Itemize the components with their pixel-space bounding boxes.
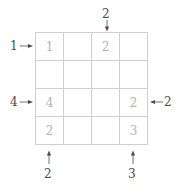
clue-label-left-row3: 4 [10, 96, 18, 108]
grid-cell-r3c4[interactable]: 2 [120, 89, 148, 117]
clue-label-bottom-col4: 3 [128, 168, 136, 180]
grid-cell-r4c1[interactable]: 2 [36, 117, 64, 145]
grid-cell-r2c3[interactable] [92, 61, 120, 89]
grid-cell-r1c1[interactable]: 1 [36, 33, 64, 61]
grid-cell-r3c2[interactable] [64, 89, 92, 117]
grid-cell-r3c3[interactable] [92, 89, 120, 117]
clue-arrow-top-col3 [100, 20, 114, 32]
clue-arrow-right-row3 [149, 96, 163, 108]
grid-cell-r2c4[interactable] [120, 61, 148, 89]
grid-cell-r2c2[interactable] [64, 61, 92, 89]
clue-label-left-row1: 1 [10, 40, 18, 52]
grid-cell-r4c2[interactable] [64, 117, 92, 145]
puzzle-grid: 1 2 4 2 2 3 [35, 32, 148, 145]
puzzle-diagram: 1 2 4 2 2 3 2 1 4 [0, 0, 177, 191]
grid-cell-r2c1[interactable] [36, 61, 64, 89]
clue-label-top-col3: 2 [102, 8, 110, 20]
clue-label-bottom-col1: 2 [44, 168, 52, 180]
clue-arrow-left-row3 [20, 96, 34, 108]
grid-cell-r1c2[interactable] [64, 33, 92, 61]
grid-cell-r1c3[interactable]: 2 [92, 33, 120, 61]
clue-arrow-bottom-col1 [42, 150, 56, 164]
clue-arrow-left-row1 [20, 40, 34, 52]
clue-arrow-bottom-col4 [126, 150, 140, 164]
clue-label-right-row3: 2 [164, 96, 172, 108]
grid-cell-r4c3[interactable] [92, 117, 120, 145]
grid-cell-r3c1[interactable]: 4 [36, 89, 64, 117]
grid-cell-r1c4[interactable] [120, 33, 148, 61]
grid-cell-r4c4[interactable]: 3 [120, 117, 148, 145]
